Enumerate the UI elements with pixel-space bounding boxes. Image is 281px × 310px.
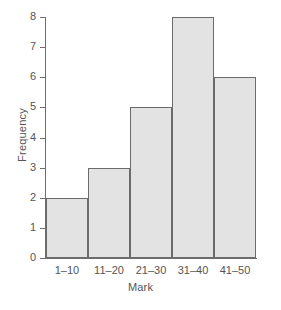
y-axis-tick-label: 0 (0, 252, 36, 263)
y-axis-tick-label: 5 (0, 101, 36, 112)
y-axis-tick (40, 138, 45, 139)
y-axis-tick-label: 3 (0, 162, 36, 173)
x-axis-tick-label: 11–20 (88, 263, 130, 277)
y-axis-tick-label: 2 (0, 192, 36, 203)
y-axis-tick (40, 17, 45, 18)
x-axis-tick-label: 21–30 (130, 263, 172, 277)
y-axis-tick (40, 77, 45, 78)
y-axis-tick (40, 258, 45, 259)
bar (214, 77, 256, 258)
y-axis-tick (40, 228, 45, 229)
y-axis-tick-label: 6 (0, 71, 36, 82)
x-axis-tick-label: 1–10 (46, 263, 88, 277)
y-axis-tick (40, 198, 45, 199)
y-axis-tick-label: 7 (0, 41, 36, 52)
y-axis-tick (40, 168, 45, 169)
y-axis-tick-label: 1 (0, 222, 36, 233)
histogram-chart: Frequency 012345678 1–1011–2021–3031–404… (0, 0, 281, 310)
x-axis-tick-label: 31–40 (172, 263, 214, 277)
x-axis-line (45, 258, 257, 259)
bar (46, 198, 88, 258)
y-axis-tick (40, 47, 45, 48)
x-axis-tick-label: 41–50 (214, 263, 256, 277)
bar (130, 107, 172, 258)
y-axis-tick-label: 4 (0, 132, 36, 143)
y-axis-tick (40, 107, 45, 108)
bar (88, 168, 130, 258)
y-axis-tick-label: 8 (0, 11, 36, 22)
bar (172, 17, 214, 258)
x-axis-title: Mark (0, 281, 281, 293)
